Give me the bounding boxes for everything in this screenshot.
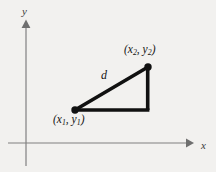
point2-y-var: y (143, 43, 148, 55)
point1-label: (x1, y1) (53, 114, 84, 126)
x-axis-arrowhead (186, 139, 194, 148)
x-axis-label: x (201, 140, 206, 151)
y-axis-label: y (22, 6, 27, 17)
point2-label: (x2, y2) (124, 44, 155, 56)
point2-close-paren: ) (152, 43, 156, 55)
point2-dot (144, 63, 151, 70)
point2-y-subscript: 2 (148, 48, 152, 57)
diagram-canvas (0, 0, 216, 172)
hypotenuse-segment (75, 67, 148, 110)
distance-label: d (101, 69, 107, 81)
point1-close-paren: ) (81, 113, 85, 125)
point1-y-subscript: 1 (77, 118, 81, 127)
distance-formula-figure: y x d (x1, y1) (x2, y2) (0, 0, 216, 172)
point1-y-var: y (72, 113, 77, 125)
point1-x-subscript: 1 (62, 118, 66, 127)
y-axis-arrowhead (22, 20, 31, 29)
point2-x-subscript: 2 (133, 48, 137, 57)
